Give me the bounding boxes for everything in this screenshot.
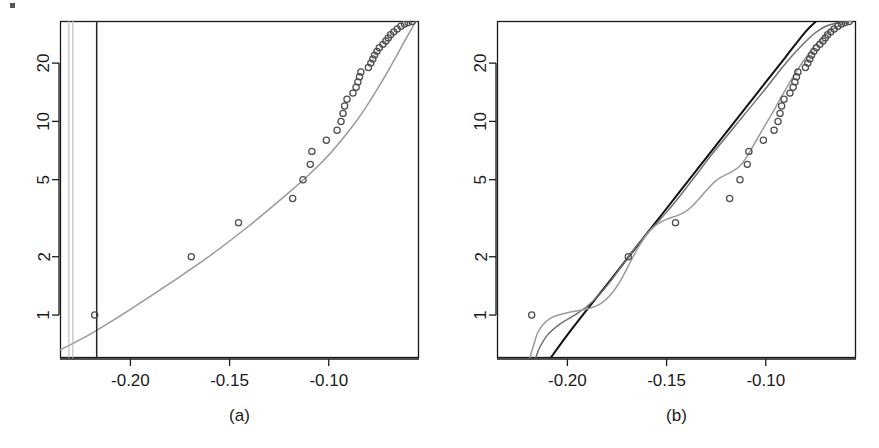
plot-area-a [60,18,416,358]
data-point-marker [777,110,783,116]
data-point-marker [737,177,743,183]
y-tick-label: 20 [35,54,54,73]
y-tick-label: 10 [35,112,54,131]
y-tick-label: 5 [472,175,491,184]
y-tick-label: 1 [472,310,491,319]
data-point-marker [334,127,340,133]
data-point-marker [672,220,678,226]
data-point-marker [771,127,777,133]
x-tick-label: -0.15 [210,371,249,390]
observed-points [92,18,416,318]
data-point-marker [779,103,785,109]
plot-box-frame-a [61,22,419,358]
data-point-marker [309,148,315,154]
data-point-marker [188,254,194,260]
x-tick-label: -0.15 [647,371,686,390]
plot-box-frame-b [498,22,856,358]
y-tick-label: 10 [472,112,491,131]
data-point-marker [760,137,766,143]
data-point-marker [744,161,750,167]
y-tick-label: 1 [35,310,54,319]
panel-caption-a: (a) [229,406,250,425]
scan-speck [10,3,15,8]
data-point-marker [342,103,348,109]
data-point-marker [323,137,329,143]
data-point-marker [727,195,733,201]
data-point-marker [290,195,296,201]
y-tick-label: 2 [472,252,491,261]
fitted-curve [60,21,416,350]
observed-points [529,18,853,318]
panel-caption-b: (b) [666,406,687,425]
x-tick-label: -0.20 [548,371,587,390]
x-tick-label: -0.10 [746,371,785,390]
figure-container: -0.20-0.15-0.101251020(a)-0.20-0.15-0.10… [0,0,879,448]
data-point-marker [340,110,346,116]
data-point-marker [307,161,313,167]
data-point-marker [344,96,350,102]
y-tick-label: 5 [35,175,54,184]
y-tick-label: 20 [472,54,491,73]
data-point-marker [338,118,344,124]
y-tick-label: 2 [35,252,54,261]
data-point-marker [781,96,787,102]
data-point-marker [775,118,781,124]
fitted-curve-mid-gray [536,21,851,358]
x-tick-label: -0.20 [111,371,150,390]
two-panel-plot: -0.20-0.15-0.101251020(a)-0.20-0.15-0.10… [0,0,879,448]
data-point-marker [529,312,535,318]
x-tick-label: -0.10 [309,371,348,390]
data-point-marker [787,90,793,96]
panel-a: -0.20-0.15-0.101251020(a) [35,18,420,425]
fitted-curve-light-gray [530,21,851,358]
plot-area-b [529,18,853,358]
data-point-marker [235,220,241,226]
data-point-marker [350,90,356,96]
panel-b: -0.20-0.15-0.101251020(b) [472,18,857,425]
